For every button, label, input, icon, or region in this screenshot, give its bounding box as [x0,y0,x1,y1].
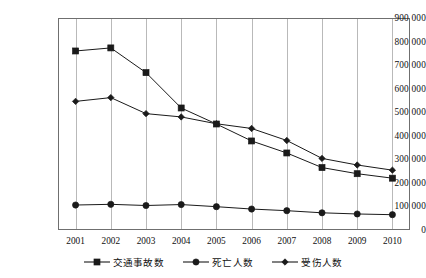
data-point-diamond [354,162,360,168]
data-point-square [389,175,395,181]
data-point-square [178,105,184,111]
chart-legend: 交通事故数死亡人数受伤人数 [0,255,426,269]
legend-marker-circle-icon [183,257,209,267]
series-line [76,48,393,178]
data-point-circle [143,202,149,208]
series-line [76,204,393,214]
data-point-square [354,171,360,177]
data-point-square [108,45,114,51]
data-point-diamond [284,137,290,143]
data-point-circle [389,212,395,218]
data-point-circle [319,210,325,216]
data-point-circle [249,206,255,212]
data-point-circle [354,211,360,217]
legend-marker-square-icon [84,257,110,267]
data-point-diamond [319,155,325,161]
legend-item: 交通事故数 [84,255,165,269]
legend-label: 死亡人数 [212,255,253,269]
data-point-square [284,150,290,156]
data-point-square [94,259,100,265]
legend-label: 交通事故数 [113,255,165,269]
data-point-square [249,138,255,144]
legend-marker-diamond-icon [272,257,298,267]
data-point-diamond [143,110,149,116]
data-point-circle [193,259,199,265]
data-point-circle [213,204,219,210]
series-group [72,94,395,173]
data-point-diamond [178,114,184,120]
series-group [73,45,396,181]
data-point-square [73,48,79,54]
data-point-diamond [389,167,395,173]
data-point-circle [178,201,184,207]
series-group [73,201,396,218]
data-point-circle [73,202,79,208]
data-point-square [143,70,149,76]
data-point-diamond [282,259,288,265]
legend-item: 死亡人数 [183,255,253,269]
series-line [76,98,393,171]
legend-label: 受伤人数 [301,255,342,269]
data-point-diamond [248,125,254,131]
data-point-diamond [108,94,114,100]
data-point-diamond [72,98,78,104]
series-layer [0,0,426,278]
data-point-circle [108,201,114,207]
legend-item: 受伤人数 [272,255,342,269]
traffic-accident-line-chart: 2001200220032004200520062007200820092010… [0,0,426,278]
data-point-circle [284,208,290,214]
data-point-square [319,165,325,171]
